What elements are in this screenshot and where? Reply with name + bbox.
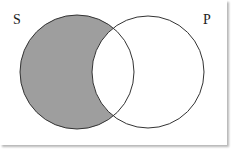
circle-p — [92, 16, 204, 128]
venn-diagram — [0, 0, 231, 149]
label-s: S — [13, 12, 21, 28]
shaded-region-s-only — [20, 15, 134, 129]
label-p: P — [203, 12, 211, 28]
